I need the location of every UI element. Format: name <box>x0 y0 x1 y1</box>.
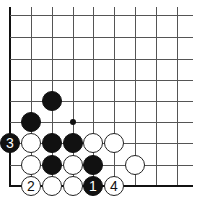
black-stone: 1 <box>83 176 103 196</box>
black-stone <box>42 133 62 153</box>
white-stone <box>42 176 62 196</box>
white-stone: 4 <box>104 176 124 196</box>
grid-line-horizontal <box>10 101 193 102</box>
grid-line-horizontal <box>10 15 193 16</box>
move-number-label: 3 <box>6 136 14 150</box>
grid-line-vertical <box>177 7 178 187</box>
move-number-label: 2 <box>27 179 35 193</box>
white-stone <box>104 133 124 153</box>
grid-line-horizontal <box>10 59 193 60</box>
white-stone <box>63 155 83 175</box>
grid-line-horizontal <box>10 80 193 81</box>
board-left-edge <box>9 7 11 187</box>
black-stone <box>42 91 62 111</box>
move-number-label: 1 <box>89 179 97 193</box>
white-stone <box>63 176 83 196</box>
point-marker-dot <box>70 119 76 125</box>
grid-line-vertical <box>114 7 115 187</box>
white-stone <box>21 133 41 153</box>
grid-line-horizontal <box>10 37 193 38</box>
black-stone <box>83 155 103 175</box>
black-stone <box>21 112 41 132</box>
white-stone <box>83 133 103 153</box>
white-stone: 2 <box>21 176 41 196</box>
white-stone <box>125 155 145 175</box>
grid-line-vertical <box>156 7 157 187</box>
white-stone <box>21 155 41 175</box>
black-stone: 3 <box>0 133 20 153</box>
go-board: 3214 <box>0 0 197 202</box>
move-number-label: 4 <box>110 179 118 193</box>
black-stone <box>63 133 83 153</box>
black-stone <box>42 155 62 175</box>
